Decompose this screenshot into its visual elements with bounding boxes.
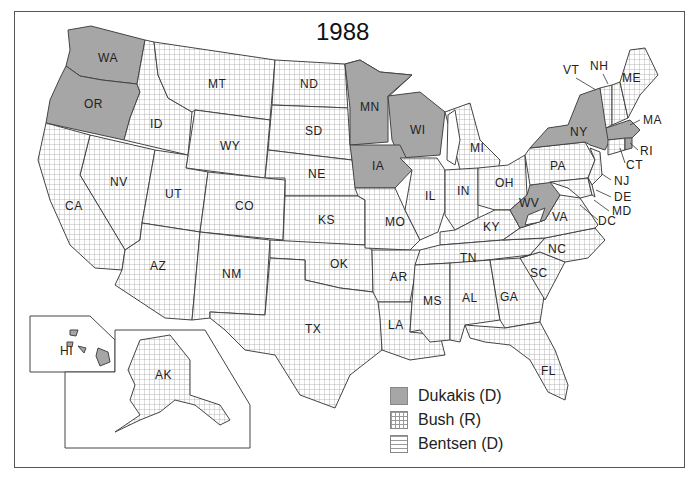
map-title: 1988	[316, 18, 369, 46]
label-OR: OR	[84, 97, 103, 111]
label-ND: ND	[300, 77, 318, 91]
legend-item-bush: Bush (R)	[390, 408, 503, 432]
label-LA: LA	[388, 318, 404, 332]
label-IA: IA	[372, 159, 384, 173]
label-NY: NY	[570, 125, 588, 139]
state-CT	[608, 138, 625, 155]
label-KY: KY	[483, 220, 500, 234]
legend-item-dukakis: Dukakis (D)	[390, 384, 503, 408]
label-ME: ME	[622, 71, 641, 85]
label-KS: KS	[318, 213, 335, 227]
label-MI: MI	[470, 141, 484, 155]
label-PA: PA	[550, 159, 566, 173]
label-NV: NV	[110, 175, 128, 189]
label-ID: ID	[150, 117, 163, 131]
label-AR: AR	[390, 270, 408, 284]
label-DC: DC	[598, 214, 616, 228]
label-TX: TX	[305, 322, 321, 336]
label-GA: GA	[500, 290, 518, 304]
label-WY: WY	[220, 139, 240, 153]
label-NH: NH	[590, 59, 608, 73]
legend-label: Dukakis (D)	[418, 387, 502, 405]
label-MA: MA	[643, 113, 662, 127]
label-FL: FL	[541, 364, 556, 378]
label-OK: OK	[330, 257, 348, 271]
legend-item-bentsen: Bentsen (D)	[390, 432, 503, 456]
label-RI: RI	[640, 144, 653, 158]
label-UT: UT	[165, 187, 182, 201]
label-WV: WV	[519, 196, 539, 210]
dukakis-swatch	[390, 387, 408, 405]
label-MT: MT	[208, 77, 226, 91]
label-AZ: AZ	[150, 259, 166, 273]
label-IN: IN	[457, 184, 470, 198]
leader-NJ	[602, 174, 611, 180]
label-VA: VA	[552, 210, 568, 224]
leader-VT	[576, 78, 596, 90]
state-NY	[530, 88, 610, 150]
bentsen-swatch	[390, 435, 408, 453]
legend-label: Bush (R)	[418, 411, 481, 429]
us-electoral-map: WA OR ID MT ND SD WY NE NV UT CA CO KS A…	[0, 0, 699, 483]
legend-label: Bentsen (D)	[418, 435, 503, 453]
label-AL: AL	[462, 291, 478, 305]
label-OH: OH	[495, 176, 514, 190]
label-MN: MN	[360, 100, 380, 114]
label-SD: SD	[305, 124, 323, 138]
label-DE: DE	[614, 190, 632, 204]
label-NM: NM	[222, 267, 242, 281]
leader-MD	[594, 200, 609, 211]
bush-swatch	[390, 411, 408, 429]
label-WA: WA	[98, 51, 118, 65]
label-NC: NC	[548, 242, 566, 256]
leader-DE	[596, 190, 611, 197]
label-SC: SC	[530, 266, 548, 280]
label-WI: WI	[410, 123, 426, 137]
label-MO: MO	[385, 215, 405, 229]
label-NJ: NJ	[614, 174, 630, 188]
label-TN: TN	[460, 251, 477, 265]
label-MS: MS	[423, 294, 442, 308]
label-VT: VT	[563, 63, 580, 77]
label-IL: IL	[425, 189, 436, 203]
label-CT: CT	[626, 158, 643, 172]
legend: Dukakis (D) Bush (R) Bentsen (D)	[390, 384, 503, 456]
label-NE: NE	[308, 167, 326, 181]
label-CA: CA	[65, 199, 83, 213]
label-CO: CO	[235, 199, 254, 213]
leader-NH	[603, 74, 608, 84]
label-HI: HI	[60, 344, 73, 358]
label-AK: AK	[155, 368, 172, 382]
